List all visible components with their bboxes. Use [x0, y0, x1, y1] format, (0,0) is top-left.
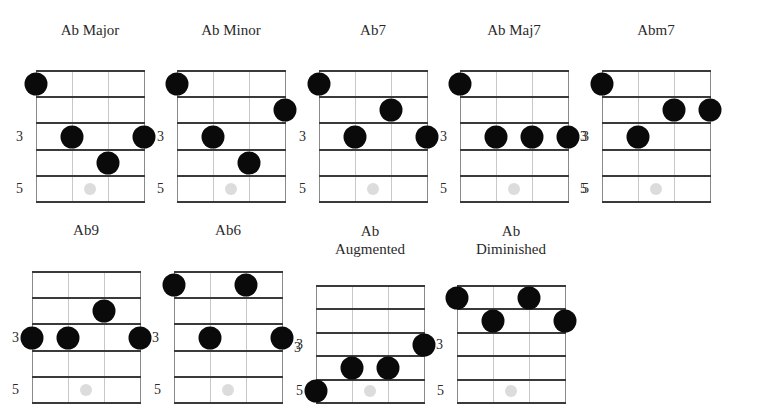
fret-line	[177, 149, 286, 151]
fret-line	[32, 323, 141, 325]
finger-dot	[380, 99, 403, 122]
fret-number-label: 3	[296, 338, 303, 352]
fret-number-label: 5	[437, 384, 444, 398]
fret-line	[32, 350, 141, 352]
string-line	[249, 71, 250, 202]
fret-position-marker	[222, 384, 234, 396]
finger-dot	[25, 73, 48, 96]
fret-line	[36, 70, 145, 72]
finger-dot	[627, 125, 650, 148]
chord-title-line: Augmented	[296, 240, 444, 258]
chord-title: Ab6	[154, 221, 302, 239]
fret-line	[319, 175, 428, 177]
fret-line	[457, 285, 566, 287]
finger-dot	[235, 274, 258, 297]
finger-dot	[21, 326, 44, 349]
finger-dot	[199, 326, 222, 349]
fret-line	[457, 402, 566, 404]
fret-number-label: 5	[12, 383, 19, 397]
string-line	[388, 286, 389, 403]
fret-number-label: 3	[152, 331, 159, 345]
chord-title: Ab7	[299, 21, 447, 39]
fret-line	[457, 355, 566, 357]
string-line	[493, 286, 494, 403]
finger-dot	[449, 73, 472, 96]
chord-title-line: Ab Maj7	[440, 21, 588, 39]
fret-position-marker	[80, 384, 92, 396]
finger-dot	[446, 286, 469, 309]
fret-line	[316, 402, 425, 404]
fret-number-label: 5	[296, 384, 303, 398]
string-line	[710, 71, 711, 202]
fret-position-marker	[508, 183, 520, 195]
chord-title: Ab Minor	[157, 21, 305, 39]
chord-title-line: Ab7	[299, 21, 447, 39]
fret-number-label: 5	[582, 182, 589, 196]
fret-position-marker	[84, 183, 96, 195]
fret-line	[177, 96, 286, 98]
chord-title-line: Ab	[296, 222, 444, 240]
finger-dot	[57, 326, 80, 349]
finger-dot	[341, 356, 364, 379]
fret-position-marker	[367, 183, 379, 195]
string-line	[104, 272, 105, 403]
chord-title: Ab9	[12, 221, 160, 239]
fret-line	[36, 122, 145, 124]
fret-line	[32, 402, 141, 404]
fret-line	[316, 308, 425, 310]
fret-line	[174, 376, 283, 378]
fret-line	[602, 149, 711, 151]
chord-title-line: Ab9	[12, 221, 160, 239]
fret-line	[319, 201, 428, 203]
finger-dot	[163, 274, 186, 297]
string-line	[285, 71, 286, 202]
fret-position-marker	[364, 385, 376, 397]
chord-title-line: Ab Major	[16, 21, 164, 39]
finger-dot	[591, 73, 614, 96]
fret-line	[319, 122, 428, 124]
chord-chart: Ab Major35Ab Minor35Ab735Ab Maj73535Abm7…	[0, 0, 757, 416]
chord-title-line: Ab	[437, 222, 585, 240]
fret-line	[460, 149, 569, 151]
chord-title: Abm7	[582, 21, 730, 39]
finger-dot	[274, 99, 297, 122]
finger-dot	[699, 99, 722, 122]
finger-dot	[308, 73, 331, 96]
fret-line	[460, 70, 569, 72]
string-line	[352, 286, 353, 403]
fret-line	[36, 96, 145, 98]
fret-number-label: 5	[157, 182, 164, 196]
fret-position-marker	[225, 183, 237, 195]
fret-number-label: 3	[299, 130, 306, 144]
finger-dot	[305, 380, 328, 403]
chord-title: Ab Maj7	[440, 21, 588, 39]
finger-dot	[202, 125, 225, 148]
finger-dot	[129, 326, 152, 349]
fret-number-label: 3	[16, 130, 23, 144]
finger-dot	[485, 125, 508, 148]
fret-line	[177, 70, 286, 72]
fret-line	[457, 379, 566, 381]
fret-number-label: 5	[154, 383, 161, 397]
fret-line	[316, 332, 425, 334]
finger-dot	[166, 73, 189, 96]
fret-line	[32, 376, 141, 378]
fret-line	[177, 175, 286, 177]
fret-line	[602, 96, 711, 98]
fret-line	[36, 149, 145, 151]
finger-dot	[521, 125, 544, 148]
fret-number-label: 3	[440, 130, 447, 144]
fret-line	[36, 175, 145, 177]
chord-title-line: Abm7	[582, 21, 730, 39]
fret-number-label: 5	[299, 182, 306, 196]
fret-line	[460, 96, 569, 98]
fret-line	[602, 122, 711, 124]
finger-dot	[518, 286, 541, 309]
fret-line	[32, 271, 141, 273]
finger-dot	[344, 125, 367, 148]
fret-line	[316, 355, 425, 357]
string-line	[108, 71, 109, 202]
fret-line	[177, 201, 286, 203]
fret-line	[602, 201, 711, 203]
string-line	[391, 71, 392, 202]
